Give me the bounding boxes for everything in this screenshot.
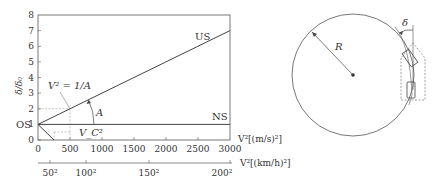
svg-text:0: 0 <box>28 135 34 145</box>
rear-wheel <box>407 82 415 98</box>
leader-line <box>60 92 70 109</box>
svg-text:200²: 200² <box>212 168 233 178</box>
front-wheel <box>402 49 418 67</box>
os-line <box>38 124 54 140</box>
v2-eq-label: V² = 1/A <box>48 80 91 91</box>
vc-label: V_C² <box>79 127 103 139</box>
steering-diagram: 0 1 2 3 4 5 6 7 8 δ/δ₀ 0 500 1000 1500 2… <box>0 0 434 187</box>
ns-label: NS <box>212 111 228 122</box>
svg-text:8: 8 <box>28 10 34 20</box>
svg-text:1000: 1000 <box>91 144 114 154</box>
svg-text:500: 500 <box>61 144 78 154</box>
svg-text:50²: 50² <box>42 168 57 178</box>
y-axis-label: δ/δ₀ <box>14 77 24 95</box>
steer-angle-label: δ <box>402 17 408 28</box>
radius-line <box>312 32 353 75</box>
svg-text:3000: 3000 <box>219 144 242 154</box>
us-label: US <box>195 31 210 42</box>
secondary-x-axis-label: V²[(km/h)²] <box>239 158 291 168</box>
path-line <box>395 27 412 105</box>
svg-text:0: 0 <box>35 144 41 154</box>
angle-arc <box>89 100 95 124</box>
svg-text:150²: 150² <box>139 168 160 178</box>
os-label: OS <box>16 119 31 130</box>
svg-text:1500: 1500 <box>123 144 146 154</box>
a-label: A <box>95 107 103 118</box>
radius-label: R <box>334 41 343 52</box>
secondary-x-tick-labels: 50² 100² 150² 200² <box>42 168 232 178</box>
x-axis-label: V²[(m/s)²] <box>237 134 282 144</box>
svg-text:2500: 2500 <box>187 144 210 154</box>
vehicle <box>395 25 425 105</box>
svg-text:4: 4 <box>28 73 34 83</box>
svg-text:100²: 100² <box>76 168 97 178</box>
us-line <box>38 31 230 125</box>
svg-text:5: 5 <box>28 57 34 67</box>
svg-text:2000: 2000 <box>155 144 178 154</box>
svg-text:3: 3 <box>28 88 34 98</box>
svg-text:2: 2 <box>28 104 34 114</box>
x-tick-labels: 0 500 1000 1500 2000 2500 3000 <box>35 144 242 154</box>
svg-text:7: 7 <box>28 26 34 36</box>
svg-text:6: 6 <box>28 41 34 51</box>
